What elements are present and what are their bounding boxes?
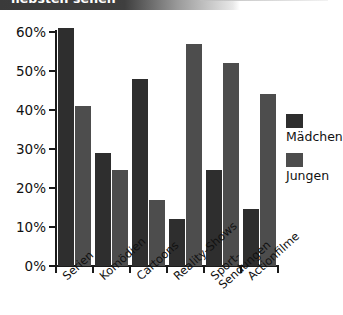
legend-swatch bbox=[286, 153, 303, 167]
x-tick-mark bbox=[203, 266, 205, 273]
y-tick-mark bbox=[49, 70, 56, 72]
legend-label: Jungen bbox=[286, 168, 328, 183]
y-tick-mark bbox=[49, 148, 56, 150]
bar-serien-m-dchen bbox=[58, 28, 74, 266]
chart-legend: MädchenJungen bbox=[286, 114, 328, 192]
y-tick-mark bbox=[49, 109, 56, 111]
y-tick-label: 30% bbox=[16, 141, 46, 157]
y-tick-label: 0% bbox=[25, 258, 46, 274]
bar-kom-dien-m-dchen bbox=[95, 153, 111, 266]
y-tick-mark bbox=[49, 31, 56, 33]
title-banner-tail bbox=[200, 0, 328, 1]
legend-swatch bbox=[286, 114, 303, 128]
y-tick-label: 20% bbox=[16, 180, 46, 196]
legend-item-m-dchen[interactable]: Mädchen bbox=[286, 114, 328, 144]
y-tick-label: 50% bbox=[16, 63, 46, 79]
chart-title: liebsten sehen bbox=[11, 0, 116, 6]
x-tick-mark bbox=[166, 266, 168, 273]
y-tick-label: 40% bbox=[16, 102, 46, 118]
x-tick-mark bbox=[92, 266, 94, 273]
bar-serien-jungen bbox=[75, 106, 91, 266]
y-tick-mark bbox=[49, 226, 56, 228]
y-tick-mark bbox=[49, 187, 56, 189]
chart-plot: 0%10%20%30%40%50%60% SerienKomödienCarto… bbox=[0, 10, 328, 315]
bar-reality-shows-jungen bbox=[186, 44, 202, 266]
legend-item-jungen[interactable]: Jungen bbox=[286, 153, 328, 183]
bars-container bbox=[56, 32, 278, 266]
x-tick-mark bbox=[55, 266, 57, 273]
title-banner: liebsten sehen bbox=[0, 0, 328, 10]
x-tick-mark bbox=[277, 266, 279, 273]
y-tick-label: 10% bbox=[16, 219, 46, 235]
x-tick-mark bbox=[129, 266, 131, 273]
legend-label: Mädchen bbox=[286, 129, 328, 144]
y-tick-label: 60% bbox=[16, 24, 46, 40]
